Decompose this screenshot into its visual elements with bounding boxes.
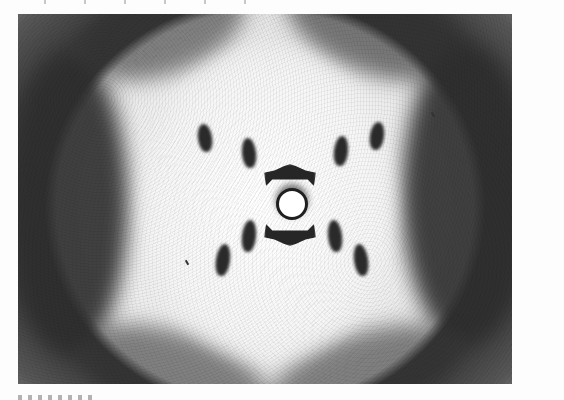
diffraction-photograph <box>18 14 512 384</box>
document-page <box>0 0 564 400</box>
cropped-heading-text <box>30 0 270 4</box>
cropped-caption-text <box>18 395 98 400</box>
beam-stop-ring <box>276 188 308 220</box>
film-grain <box>18 14 512 384</box>
